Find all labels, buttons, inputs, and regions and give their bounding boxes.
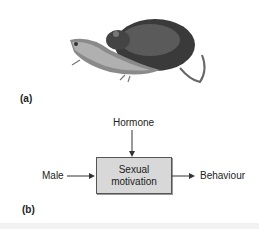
box-line-1: Sexual: [119, 164, 150, 176]
behaviour-label: Behaviour: [200, 170, 245, 181]
sexual-motivation-box: Sexual motivation: [96, 157, 172, 194]
rats-illustration: [60, 10, 210, 90]
male-label: Male: [42, 170, 64, 181]
page-bottom-band: [0, 223, 259, 229]
behaviour-arrow: [172, 172, 197, 180]
hormone-label: Hormone: [113, 117, 154, 128]
male-arrow: [67, 172, 97, 180]
panel-a-label: (a): [20, 93, 32, 104]
hormone-arrow: [128, 130, 136, 158]
panel-b-label: (b): [22, 204, 35, 215]
box-line-2: motivation: [111, 176, 157, 188]
